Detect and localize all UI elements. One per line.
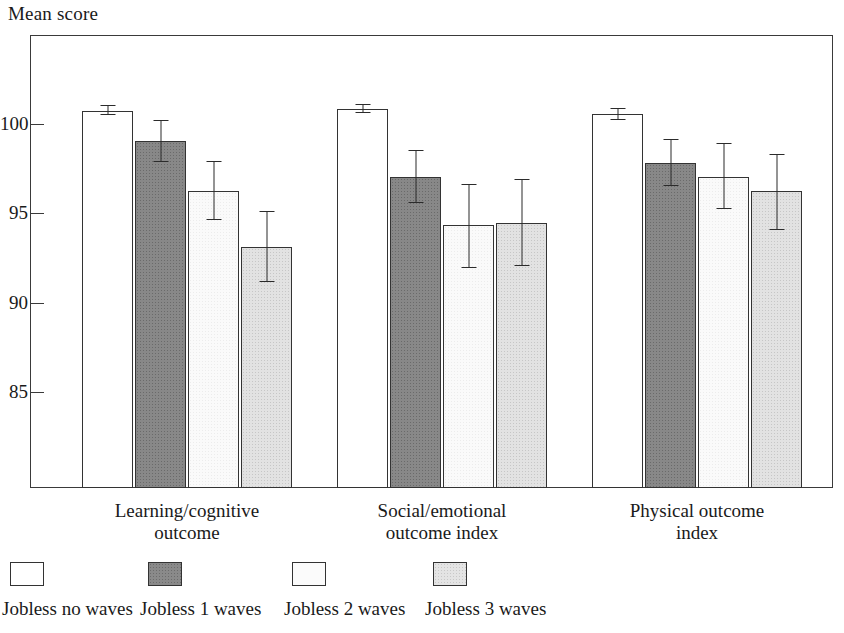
- error-bar-cap-bottom: [355, 112, 370, 113]
- bar: [188, 191, 239, 488]
- error-bar-cap-top: [100, 105, 115, 106]
- error-bar-cap-top: [769, 154, 784, 155]
- x-axis-category-label: Physical outcome index: [557, 500, 837, 545]
- error-bar-cap-bottom: [663, 185, 678, 186]
- error-bar: [645, 139, 696, 185]
- y-axis-tick-label: 85: [0, 382, 28, 401]
- y-axis-title: Mean score: [8, 3, 98, 25]
- bar: [337, 109, 388, 488]
- error-bar-cap-top: [259, 211, 274, 212]
- error-bar-cap-bottom: [153, 161, 168, 162]
- error-bar: [443, 184, 494, 268]
- error-bar-stem: [521, 179, 522, 267]
- error-bar-cap-bottom: [408, 202, 423, 203]
- error-bar: [390, 150, 441, 203]
- error-bar-cap-top: [408, 150, 423, 151]
- bar: [751, 191, 802, 488]
- bar: [390, 177, 441, 488]
- error-bar: [241, 211, 292, 282]
- legend-swatch: [292, 562, 326, 586]
- error-bar-cap-top: [355, 104, 370, 105]
- x-axis-category-label: Learning/cognitive outcome: [47, 500, 327, 545]
- error-bar-stem: [723, 143, 724, 209]
- error-bar: [337, 104, 388, 114]
- bar: [645, 163, 696, 488]
- bar: [241, 247, 292, 489]
- error-bar-cap-bottom: [769, 229, 784, 230]
- bar: [82, 111, 133, 488]
- y-axis-tick-label: 90: [0, 293, 28, 312]
- error-bar-stem: [670, 139, 671, 185]
- error-bar-cap-top: [610, 108, 625, 109]
- error-bar-cap-top: [461, 184, 476, 185]
- error-bar-cap-bottom: [100, 114, 115, 115]
- error-bar-cap-top: [716, 143, 731, 144]
- figure: Mean score 100959085 Learning/cognitive …: [0, 0, 844, 633]
- error-bar-cap-bottom: [716, 208, 731, 209]
- error-bar-cap-top: [514, 179, 529, 180]
- bar: [592, 114, 643, 488]
- error-bar-cap-bottom: [610, 119, 625, 120]
- error-bar: [698, 143, 749, 209]
- error-bar: [82, 105, 133, 115]
- legend-swatch: [10, 562, 44, 586]
- bar: [698, 177, 749, 488]
- error-bar-cap-top: [663, 139, 678, 140]
- error-bar-cap-top: [153, 120, 168, 121]
- bar: [135, 141, 186, 488]
- error-bar-cap-bottom: [461, 267, 476, 268]
- y-axis-tick-label: 100: [0, 114, 28, 133]
- error-bar-cap-bottom: [206, 219, 221, 220]
- error-bar: [135, 120, 186, 162]
- x-axis-category-label: Social/emotional outcome index: [302, 500, 582, 545]
- error-bar-stem: [776, 154, 777, 231]
- error-bar-stem: [468, 184, 469, 268]
- error-bar: [592, 108, 643, 120]
- legend-label: Jobless no waves: [2, 598, 133, 620]
- error-bar-stem: [160, 120, 161, 162]
- legend-label: Jobless 2 waves: [284, 598, 405, 620]
- legend-swatch: [433, 562, 467, 586]
- legend-label: Jobless 3 waves: [425, 598, 546, 620]
- error-bar-stem: [266, 211, 267, 282]
- legend-swatch: [148, 562, 182, 586]
- error-bar-cap-top: [206, 161, 221, 162]
- error-bar-cap-bottom: [259, 281, 274, 282]
- error-bar-stem: [415, 150, 416, 203]
- error-bar-cap-bottom: [514, 265, 529, 266]
- legend-label: Jobless 1 waves: [140, 598, 261, 620]
- error-bar: [751, 154, 802, 231]
- y-axis-tick-label: 95: [0, 203, 28, 222]
- error-bar: [496, 179, 547, 267]
- error-bar: [188, 161, 239, 220]
- error-bar-stem: [213, 161, 214, 220]
- bars-layer: [30, 35, 833, 488]
